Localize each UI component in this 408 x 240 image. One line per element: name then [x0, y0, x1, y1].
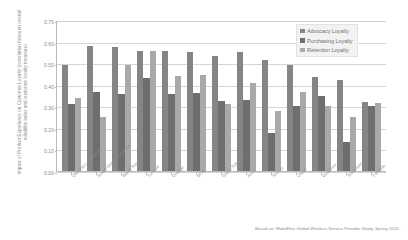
source-footnote: Based on: Mob4Hire Global Wireless Servi…: [255, 226, 400, 231]
x-axis-label: T-Mobile: [371, 175, 375, 179]
bar: [350, 117, 356, 171]
x-axis-label: MTN: [196, 175, 200, 179]
y-axis-tick-label: 0.10: [44, 148, 54, 154]
x-axis-label: Airtel: [246, 175, 250, 179]
x-axis-label: Ufone: [296, 175, 300, 179]
x-axis-label: Turkcell: [146, 175, 150, 179]
bar: [325, 106, 331, 171]
bar: [250, 83, 256, 171]
x-axis-label: Smart Communications: [96, 175, 100, 179]
legend-swatch-icon: [300, 29, 305, 34]
x-axis-labels: OVERALL SAMPLESmart CommunicationsWarid …: [56, 175, 386, 219]
y-axis-tick-label: 0.60: [44, 41, 54, 47]
bar: [225, 104, 231, 171]
bar-chart-figure: Impact of Product Experience on Customer…: [0, 0, 408, 240]
bar: [275, 111, 281, 171]
chart-legend: Advocacy LoyaltyPurchasing LoyaltyRetent…: [296, 24, 358, 57]
bar: [375, 103, 381, 171]
y-axis-tick-label: 0.00: [44, 170, 54, 176]
y-axis-tick-label: 0.50: [44, 62, 54, 68]
y-axis-tick-label: 0.40: [44, 84, 54, 90]
bar-group: [234, 21, 259, 171]
legend-item: Purchasing Loyalty: [300, 38, 353, 44]
y-axis-tick-label: 0.20: [44, 127, 54, 133]
bar: [75, 98, 81, 171]
bar-group: [209, 21, 234, 171]
x-axis-label: Vodafone: [321, 175, 325, 179]
bar-group: [59, 21, 84, 171]
x-axis-label: Telenor: [271, 175, 275, 179]
legend-label: Retention Loyalty: [307, 47, 349, 53]
bar-group: [134, 21, 159, 171]
legend-label: Advocacy Loyalty: [307, 28, 349, 34]
legend-item: Retention Loyalty: [300, 47, 353, 53]
bar: [100, 117, 106, 171]
legend-swatch-icon: [300, 48, 305, 53]
bar-group: [184, 21, 209, 171]
x-axis-label: OVERALL SAMPLE: [71, 175, 75, 179]
legend-item: Advocacy Loyalty: [300, 28, 353, 34]
y-axis-tick-label: 0.70: [44, 19, 54, 25]
bar: [200, 75, 206, 171]
legend-label: Purchasing Loyalty: [307, 38, 353, 44]
y-axis-tick-label: 0.30: [44, 105, 54, 111]
x-axis-label: Warid Telecom: [121, 175, 125, 179]
x-axis-label: Telkomsel: [346, 175, 350, 179]
bar: [150, 51, 156, 171]
bar: [300, 92, 306, 171]
bar-group: [359, 21, 384, 171]
bar: [125, 65, 131, 171]
bar: [175, 76, 181, 171]
legend-swatch-icon: [300, 38, 305, 43]
x-axis-label: Orange: [171, 175, 175, 179]
x-axis-label: Globe Telecom: [221, 175, 225, 179]
y-axis-title: Impact of Product Experience on Customer…: [17, 6, 29, 178]
bar-group: [259, 21, 284, 171]
bar-group: [159, 21, 184, 171]
